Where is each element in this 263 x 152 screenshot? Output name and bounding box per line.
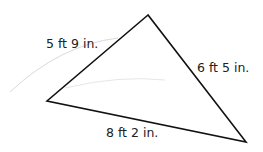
- faint-arc: [65, 79, 165, 88]
- side-label-bottom: 8 ft 2 in.: [106, 125, 158, 140]
- side-label-left: 5 ft 9 in.: [46, 36, 98, 51]
- triangle-diagram: 5 ft 9 in. 6 ft 5 in. 8 ft 2 in.: [0, 0, 263, 152]
- side-label-right: 6 ft 5 in.: [197, 60, 249, 75]
